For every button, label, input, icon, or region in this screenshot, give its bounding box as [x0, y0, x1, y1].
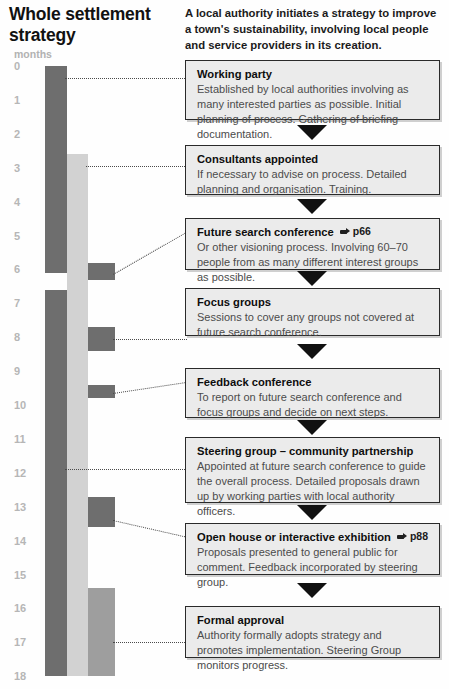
month-tick-15: 15: [14, 569, 44, 581]
month-tick-10: 10: [14, 399, 44, 411]
future-search-block: [88, 263, 115, 280]
step-body: Authority formally adopts strategy and p…: [197, 628, 430, 673]
flow-arrow-6: [297, 505, 327, 520]
step-box-1[interactable]: Working partyEstablished by local author…: [185, 60, 440, 120]
step-body: If necessary to advise on process. Detai…: [197, 167, 430, 197]
feedback-block: [88, 385, 115, 399]
step-heading: Focus groups: [197, 295, 430, 309]
month-tick-7: 7: [14, 297, 44, 309]
step-box-5[interactable]: Feedback conferenceTo report on future s…: [185, 368, 440, 418]
flow-arrow-2: [297, 199, 327, 214]
step-heading-text: Focus groups: [197, 296, 271, 308]
axis-label-months: months: [14, 48, 52, 60]
working-party-bar: [45, 66, 67, 273]
step-heading-text: Future search conference: [197, 226, 334, 238]
cross-reference-link[interactable]: p66: [340, 225, 371, 238]
month-tick-16: 16: [14, 602, 44, 614]
step-heading: Open house or interactive exhibitionp88: [197, 530, 430, 544]
month-tick-5: 5: [14, 230, 44, 242]
formal-approval-bar: [88, 588, 115, 676]
step-box-6[interactable]: Steering group – community partnershipAp…: [185, 437, 440, 503]
step-box-4[interactable]: Focus groupsSessions to cover any groups…: [185, 288, 440, 336]
step-heading-text: Feedback conference: [197, 376, 311, 388]
month-tick-13: 13: [14, 501, 44, 513]
flow-arrow-3: [297, 271, 327, 286]
leader-line-1: [65, 78, 187, 79]
month-tick-18: 18: [14, 670, 44, 682]
step-heading: Formal approval: [197, 613, 430, 627]
month-tick-17: 17: [14, 636, 44, 648]
cross-reference-page: p88: [410, 530, 428, 542]
cross-reference-link[interactable]: p88: [397, 530, 428, 543]
step-box-2[interactable]: Consultants appointedIf necessary to adv…: [185, 145, 440, 195]
step-heading-text: Formal approval: [197, 614, 284, 626]
step-heading: Consultants appointed: [197, 152, 430, 166]
pointing-hand-icon: [340, 228, 351, 235]
step-box-3[interactable]: Future search conferencep66Or other visi…: [185, 218, 440, 270]
month-tick-6: 6: [14, 263, 44, 275]
step-heading-text: Open house or interactive exhibition: [197, 531, 391, 543]
step-box-8[interactable]: Formal approvalAuthority formally adopts…: [185, 606, 440, 658]
month-tick-0: 0: [14, 60, 44, 72]
step-body: To report on future search conference an…: [197, 390, 430, 420]
page-title: Whole settlement strategy: [9, 4, 174, 47]
flow-arrow-5: [297, 420, 327, 435]
open-house-block: [88, 497, 115, 528]
leader-line-6: [65, 469, 187, 470]
leader-line-4: [113, 339, 187, 340]
step-box-7[interactable]: Open house or interactive exhibitionp88P…: [185, 523, 440, 575]
pointing-hand-icon: [397, 533, 408, 540]
month-tick-9: 9: [14, 365, 44, 377]
focus-groups-block: [88, 327, 115, 351]
month-tick-4: 4: [14, 196, 44, 208]
step-body: Sessions to cover any groups not covered…: [197, 310, 430, 340]
step-heading: Future search conferencep66: [197, 225, 430, 239]
step-heading-text: Consultants appointed: [197, 153, 318, 165]
month-tick-2: 2: [14, 128, 44, 140]
step-heading: Steering group – community partnership: [197, 444, 430, 458]
intro-paragraph: A local authority initiates a strategy t…: [185, 5, 443, 53]
steering-group-bar: [45, 290, 67, 676]
leader-line-5: [113, 382, 187, 394]
flow-arrow-7: [297, 583, 327, 598]
cross-reference-page: p66: [353, 225, 371, 237]
month-tick-14: 14: [14, 535, 44, 547]
leader-line-8: [113, 642, 187, 643]
flow-arrow-1: [297, 125, 327, 140]
month-tick-8: 8: [14, 331, 44, 343]
leader-line-2: [86, 166, 187, 167]
month-tick-3: 3: [14, 162, 44, 174]
flow-arrow-4: [297, 344, 327, 359]
step-heading: Working party: [197, 67, 430, 81]
step-heading-text: Steering group – community partnership: [197, 445, 413, 457]
month-tick-11: 11: [14, 433, 44, 445]
month-tick-12: 12: [14, 467, 44, 479]
leader-line-7: [113, 520, 187, 538]
leader-line-3: [113, 232, 187, 275]
consultants-bar: [67, 154, 88, 676]
step-heading: Feedback conference: [197, 375, 430, 389]
month-tick-1: 1: [14, 94, 44, 106]
step-heading-text: Working party: [197, 68, 272, 80]
